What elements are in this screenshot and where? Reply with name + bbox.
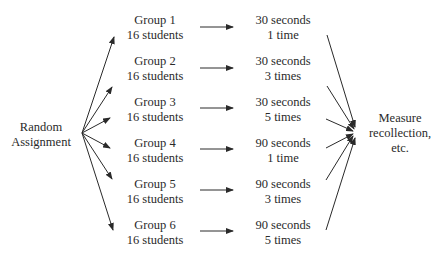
random-assignment-label: Random Assignment xyxy=(2,120,80,150)
treatment-duration: 30 seconds xyxy=(245,13,321,28)
treatment-2-box: 30 seconds 3 times xyxy=(245,54,321,84)
assign-arrow-group-5 xyxy=(82,133,112,179)
measure-line1: Measure xyxy=(363,111,437,126)
treatment-repetitions: 5 times xyxy=(245,233,321,248)
measure-label: Measure recollection, etc. xyxy=(363,111,437,156)
treatment-duration: 90 seconds xyxy=(245,177,321,192)
group-size: 16 students xyxy=(115,69,195,84)
measure-line2: recollection, xyxy=(363,126,437,141)
treatment-repetitions: 5 times xyxy=(245,110,321,125)
group-size: 16 students xyxy=(115,192,195,207)
treatment-3-box: 30 seconds 5 times xyxy=(245,95,321,125)
group-name: Group 2 xyxy=(115,54,195,69)
treatment-repetitions: 1 time xyxy=(245,28,321,43)
group-2-box: Group 2 16 students xyxy=(115,54,195,84)
treatment-4-box: 90 seconds 1 time xyxy=(245,136,321,166)
treatment-repetitions: 3 times xyxy=(245,69,321,84)
random-assignment-line2: Assignment xyxy=(2,135,80,150)
measure-arrow-2 xyxy=(327,86,354,129)
treatment-duration: 90 seconds xyxy=(245,218,321,233)
group-5-box: Group 5 16 students xyxy=(115,177,195,207)
group-6-box: Group 6 16 students xyxy=(115,218,195,248)
treatment-duration: 90 seconds xyxy=(245,136,321,151)
measure-arrow-6 xyxy=(326,138,355,230)
group-name: Group 4 xyxy=(115,136,195,151)
group-size: 16 students xyxy=(115,151,195,166)
group-name: Group 1 xyxy=(115,13,195,28)
assign-arrow-group-2 xyxy=(82,87,112,133)
group-4-box: Group 4 16 students xyxy=(115,136,195,166)
group-name: Group 3 xyxy=(115,95,195,110)
treatment-repetitions: 1 time xyxy=(245,151,321,166)
measure-arrow-4 xyxy=(326,134,353,148)
group-name: Group 5 xyxy=(115,177,195,192)
treatment-duration: 30 seconds xyxy=(245,54,321,69)
group-1-box: Group 1 16 students xyxy=(115,13,195,43)
treatment-5-box: 90 seconds 3 times xyxy=(245,177,321,207)
group-3-box: Group 3 16 students xyxy=(115,95,195,125)
random-assignment-line1: Random xyxy=(2,120,80,135)
group-size: 16 students xyxy=(115,110,195,125)
group-size: 16 students xyxy=(115,233,195,248)
group-size: 16 students xyxy=(115,28,195,43)
treatment-1-box: 30 seconds 1 time xyxy=(245,13,321,43)
treatment-6-box: 90 seconds 5 times xyxy=(245,218,321,248)
measure-arrow-1 xyxy=(327,35,355,127)
treatment-duration: 30 seconds xyxy=(245,95,321,110)
treatment-repetitions: 3 times xyxy=(245,192,321,207)
group-name: Group 6 xyxy=(115,218,195,233)
measure-line3: etc. xyxy=(363,141,437,156)
